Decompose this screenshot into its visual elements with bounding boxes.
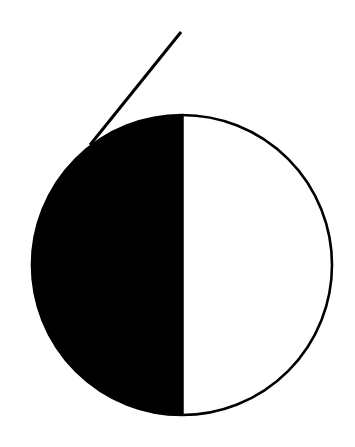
logo-canvas: Stylized numeral six [0, 0, 355, 447]
numeral-six-icon [0, 0, 355, 447]
